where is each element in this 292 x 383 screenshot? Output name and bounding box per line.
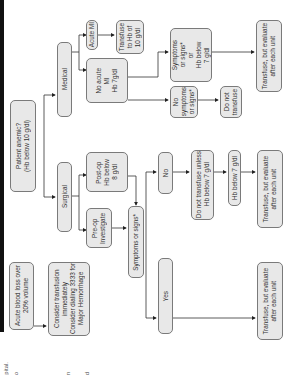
node-transfuse-evaluate-medical: Transfuse, but evaluate after each unit [256,20,282,92]
node-label: Consider transfusion immediately Conside… [53,263,85,334]
node-transfuse-to-10: Transfuse to Hb of 10 g/dl [116,20,144,54]
node-label: Transfuse, but evaluate after each unit [261,23,277,90]
margin-text-fragment: n [65,372,71,375]
connector-lines [0,0,292,383]
node-label: Surgical [61,185,69,208]
node-label: Patient anemic? (Hb below 10 g/dl) [15,120,31,172]
node-do-not-transfuse-unless: Do not transfuse unless Hb below 7 g/dl [191,150,214,220]
node-label: Do not transfuse [223,89,239,115]
node-transfuse-evaluate-no: Transfuse, but evaluate after each unit [257,150,283,228]
node-transfuse-evaluate-yes: Transfuse, but evaluate after each unit [257,262,283,340]
node-label: Transfuse to Hb of 10 g/dl [118,23,142,51]
node-post-op: Post-op Hb below 8 g/dl [86,152,128,192]
node-symptoms-or-signs: Symptoms or signs* [128,206,144,278]
node-label: Acute MI [88,22,96,47]
node-label: No acute MI Hb 7g/dl [95,68,119,94]
node-label: Post-op Hb below 8 g/dl [95,159,119,186]
node-hb-below-7: Hb below 7 g/dl [228,150,241,206]
node-label: Acute blood loss over 20% volume [14,265,30,326]
node-surgical: Surgical [57,162,72,232]
node-label: No [162,169,170,177]
node-symptoms-or-hb-below-7: Symptoms or signs* or Hb below 7 g/dl [170,28,212,82]
node-label: Medical [61,68,69,90]
node-label: Transfuse, but evaluate after each unit [262,268,278,335]
node-consider-transfusion: Consider transfusion immediately Conside… [48,262,90,336]
node-medical: Medical [57,42,72,117]
margin-text-fragment: d [84,372,90,375]
node-label: Hb below 7 g/dl [231,156,239,200]
node-label: Transfuse, but evaluate after each unit [262,156,278,223]
node-label: Do not transfuse unless Hb below 7 g/dl [195,151,211,218]
node-yes: Yes [158,258,173,334]
node-patient-anemic: Patient anemic? (Hb below 10 g/dl) [10,100,36,192]
node-do-not-transfuse: Do not transfuse [220,86,242,118]
node-label: Symptoms or signs* or Hb below 7 g/dl [171,40,211,70]
node-pre-op: Pre-op Investigate [86,208,112,248]
node-no-symptoms: No symptoms or signs* [170,86,198,118]
node-no-acute-mi: No acute MI Hb 7g/dl [86,58,128,103]
margin-text-fragment: o [13,372,19,375]
node-acute-blood-loss: Acute blood loss over 20% volume [9,262,34,330]
node-label: Pre-op Investigate [91,213,107,244]
node-label: Symptoms or signs* [132,214,140,271]
node-no: No [158,152,173,194]
node-label: No symptoms or signs* [172,87,196,116]
node-label: Yes [162,291,170,301]
margin-text-fragment: pital. [3,362,9,375]
node-acute-mi: Acute MI [86,20,98,50]
